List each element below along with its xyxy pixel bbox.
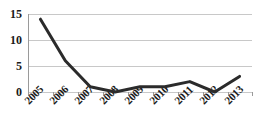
line-chart: 15 10 5 0 2005 2006 2007 2008 2009 2010 … [0,0,254,135]
series-line-plot [0,0,254,135]
series-line-0 [40,19,239,92]
